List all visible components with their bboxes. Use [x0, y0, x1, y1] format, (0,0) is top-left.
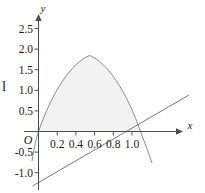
x-tick-label: 0.8 [106, 138, 121, 150]
x-tick-label: 0.4 [69, 138, 84, 150]
x-axis-label: x [187, 119, 193, 131]
y-tick-label: 0.5 [19, 105, 34, 117]
y-axis-ticks [35, 29, 39, 173]
x-tick-label: 1.0 [125, 138, 140, 150]
x-tick-labels: 0.2 0.4 0.6 0.8 1.0 [50, 138, 139, 150]
x-tick-label: 0.2 [50, 138, 65, 150]
x-tick-label: 0.6 [87, 138, 102, 150]
y-tick-label: 1.5 [19, 64, 34, 76]
y-tick-label: 2.0 [19, 43, 34, 55]
y-tick-label: -0.5 [15, 146, 33, 158]
x-axis-arrowhead [176, 128, 183, 134]
y-tick-label: 1.0 [19, 84, 34, 96]
y-axis-label: y [40, 2, 46, 14]
y-tick-label: 2.5 [19, 23, 34, 35]
origin-label: O [24, 133, 33, 147]
math-plot-figure: l [0, 0, 205, 193]
shaded-region [39, 56, 141, 132]
y-tick-labels: 2.5 2.0 1.5 1.0 0.5 -0.5 -1.0 [15, 23, 33, 179]
y-axis-arrowhead [35, 14, 41, 21]
y-tick-label: -1.0 [15, 167, 33, 179]
plot-canvas: 2.5 2.0 1.5 1.0 0.5 -0.5 -1.0 0.2 0.4 0.… [0, 0, 205, 193]
